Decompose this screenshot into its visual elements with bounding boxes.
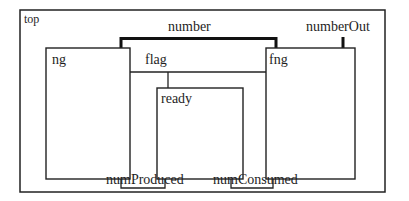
fng-block-label: fng	[269, 53, 288, 67]
ng-block-label: ng	[52, 53, 66, 67]
numProduced-signal-label: numProduced	[106, 173, 184, 187]
ng-block	[46, 48, 130, 179]
flag-signal-label: flag	[145, 53, 167, 67]
ready-block-label: ready	[161, 92, 192, 106]
top-container-label: top	[24, 13, 39, 25]
number-wire	[121, 39, 276, 49]
number-signal-label: number	[168, 20, 211, 34]
numberOut-signal-label: numberOut	[306, 20, 370, 34]
numConsumed-signal-label: numConsumed	[213, 173, 298, 187]
fng-block	[266, 48, 355, 179]
